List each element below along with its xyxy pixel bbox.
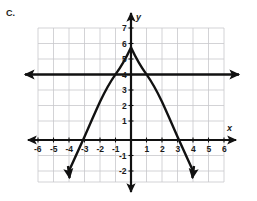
x-tick-label--3: -3 [81,145,89,154]
x-tick-label-2: 2 [160,145,165,154]
y-tick-label-3: 3 [122,86,127,95]
x-axis-label: x [227,124,232,133]
parabola-left-arrow [68,166,70,178]
y-tick-label--1: -1 [119,152,127,161]
y-tick-label--2: -2 [119,167,127,176]
x-tick-label--6: -6 [34,145,42,154]
x-tick-label--5: -5 [50,145,58,154]
graph-figure [0,0,257,201]
x-tick-label-5: 5 [207,145,212,154]
x-tick-label-4: 4 [191,145,196,154]
y-tick-label-4: 4 [122,71,127,80]
x-tick-label-1: 1 [145,145,150,154]
y-tick-label-5: 5 [122,55,127,64]
y-tick-label-2: 2 [122,102,127,111]
y-axis-label: y [136,13,141,22]
y-tick-label-6: 6 [122,40,127,49]
y-tick-label-7: 7 [122,24,127,33]
x-tick-label--4: -4 [66,145,74,154]
x-tick-label--2: -2 [97,145,105,154]
x-tick-label-6: 6 [222,145,227,154]
parabola-right-arrow [192,166,194,178]
y-tick-label-1: 1 [122,117,127,126]
x-tick-label-3: 3 [176,145,181,154]
problem-label: C. [6,9,15,18]
